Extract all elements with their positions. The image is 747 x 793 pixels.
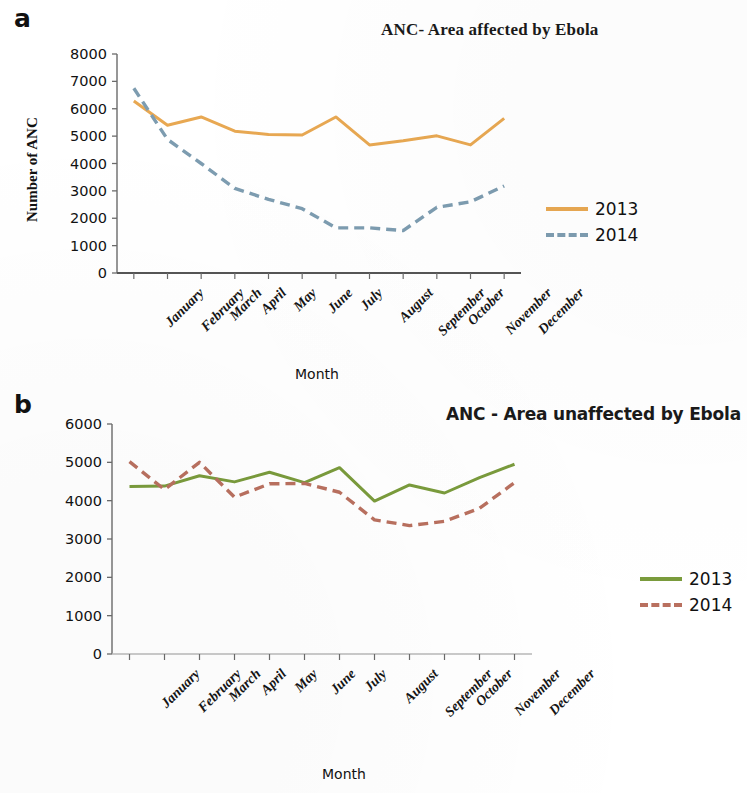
legend-label: 2014 <box>595 225 638 245</box>
y-tick-label: 1000 <box>70 238 107 254</box>
y-tick-label: 6000 <box>65 416 102 432</box>
chart-title-b: ANC - Area unaffected by Ebola <box>446 404 741 424</box>
x-tick-label: August <box>401 666 441 706</box>
y-tick-label: 3000 <box>70 183 107 199</box>
series-line-2014 <box>130 462 515 526</box>
panel-letter-a: a <box>14 6 31 31</box>
chart-title-a: ANC- Area affected by Ebola <box>381 20 599 40</box>
legend-item-2013[interactable]: 2013 <box>546 196 638 222</box>
y-tick-label: 5000 <box>70 128 107 144</box>
x-tick-label: May <box>291 666 320 695</box>
legend-label: 2013 <box>689 569 732 589</box>
panel-letter-b: b <box>14 392 32 417</box>
plot-area-a: 010002000300040005000600070008000January… <box>117 54 521 273</box>
y-tick-label: 2000 <box>70 210 107 226</box>
y-tick-label: 4000 <box>70 156 107 172</box>
legend-a: 20132014 <box>546 196 638 248</box>
legend-swatch-2013 <box>546 207 588 211</box>
y-tick-label: 1000 <box>65 608 102 624</box>
y-tick-label: 0 <box>98 265 107 281</box>
y-tick-label: 7000 <box>70 73 107 89</box>
legend-swatch-2014 <box>640 603 682 607</box>
legend-swatch-2013 <box>640 577 682 581</box>
y-tick-label: 6000 <box>70 101 107 117</box>
x-tick-label: August <box>396 285 436 325</box>
panel-b: b ANC - Area unaffected by Ebola Number … <box>0 388 747 793</box>
series-line-2013 <box>134 101 504 145</box>
legend-label: 2013 <box>595 199 638 219</box>
plot-area-b: 0100020003000400050006000JanuaryFebruary… <box>112 424 532 654</box>
panel-a: a ANC- Area affected by Ebola Number of … <box>0 0 747 396</box>
x-axis-title-a: Month <box>295 366 339 382</box>
legend-item-2013[interactable]: 2013 <box>640 566 732 592</box>
legend-item-2014[interactable]: 2014 <box>640 592 732 618</box>
legend-b: 20132014 <box>640 566 732 618</box>
chart-svg <box>117 54 561 287</box>
legend-label: 2014 <box>689 595 732 615</box>
y-tick-label: 5000 <box>65 454 102 470</box>
x-tick-label: June <box>327 666 359 698</box>
series-line-2014 <box>134 88 504 230</box>
chart-svg <box>112 424 572 668</box>
y-tick-label: 0 <box>93 646 102 662</box>
x-tick-label: July <box>357 285 386 314</box>
x-tick-label: June <box>325 285 357 317</box>
x-axis-title-b: Month <box>322 766 366 782</box>
series-line-2013 <box>130 464 515 501</box>
y-tick-label: 8000 <box>70 46 107 62</box>
y-tick-label: 3000 <box>65 531 102 547</box>
y-tick-label: 2000 <box>65 569 102 585</box>
y-tick-label: 4000 <box>65 493 102 509</box>
legend-item-2014[interactable]: 2014 <box>546 222 638 248</box>
x-tick-label: April <box>257 285 289 317</box>
y-axis-title-a: Number of ANC <box>24 117 41 222</box>
x-tick-label: July <box>361 666 390 695</box>
x-tick-label: April <box>257 666 289 698</box>
x-tick-label: May <box>290 285 319 314</box>
legend-swatch-2014 <box>546 233 588 237</box>
